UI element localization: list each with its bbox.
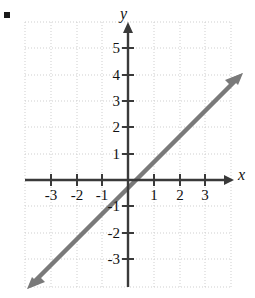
y-tick-label: -2 [100, 226, 120, 241]
x-tick-label: 1 [143, 188, 165, 203]
x-tick-label: -2 [66, 188, 88, 203]
x-tick-label: -3 [40, 188, 62, 203]
y-axis-label: y [120, 6, 127, 22]
y-tick-label: -3 [100, 252, 120, 267]
x-tick-label: 3 [194, 188, 216, 203]
y-tick-label: 1 [100, 147, 120, 162]
y-tick-label: 3 [100, 94, 120, 109]
y-tick-label: -1 [100, 199, 120, 214]
x-axis-label: x [238, 167, 245, 183]
figure-canvas: y x -3 -2 -1 1 2 3 5 4 3 2 1 -1 -2 -3 [0, 0, 255, 298]
coordinate-plane: y x -3 -2 -1 1 2 3 5 4 3 2 1 -1 -2 -3 [0, 0, 255, 298]
y-tick-label: 4 [100, 68, 120, 83]
x-tick-label: 2 [169, 188, 191, 203]
axis-arrowheads [123, 22, 234, 185]
graph-svg [0, 0, 255, 298]
y-tick-label: 2 [100, 120, 120, 135]
axes [25, 30, 226, 287]
y-tick-label: 5 [100, 41, 120, 56]
